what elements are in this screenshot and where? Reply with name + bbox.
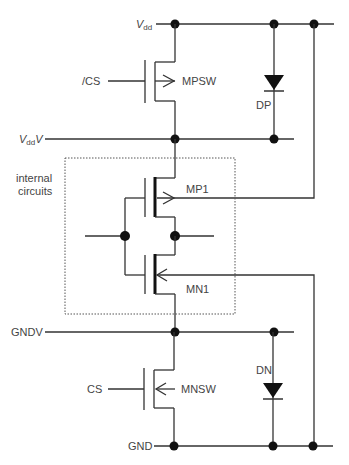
gnd-label: GND — [128, 440, 153, 452]
vdd-rail: Vdd — [136, 18, 334, 32]
internal-circuits-label-1: internal — [16, 172, 52, 184]
gnd-rail: GND — [128, 440, 333, 452]
mn1-label: MN1 — [186, 283, 209, 295]
transistor-mn1: MN1 — [145, 236, 314, 446]
circuit-diagram: Vdd /CS MPSW DP VddV internal circuits — [0, 0, 349, 465]
internal-circuits-label-2: circuits — [18, 185, 53, 197]
diode-dn: DN — [256, 332, 283, 446]
mpsw-label: MPSW — [182, 75, 217, 87]
dp-diode-icon — [264, 75, 284, 90]
gndv-rail: GNDV — [11, 326, 294, 338]
transistor-mpsw: /CS MPSW — [82, 24, 217, 139]
vdd-label: Vdd — [136, 18, 152, 32]
mp1-label: MP1 — [186, 183, 209, 195]
vddv-label: VddV — [19, 133, 44, 147]
gndv-label: GNDV — [11, 326, 43, 338]
vddv-rail: VddV — [19, 133, 294, 147]
dn-diode-icon — [263, 383, 283, 398]
transistor-mnsw: CS MNSW — [87, 332, 216, 446]
diode-dp: DP — [256, 24, 284, 139]
cs-bar-label: /CS — [82, 75, 100, 87]
cs-label: CS — [87, 383, 102, 395]
inverter-nodes — [85, 198, 214, 275]
dn-label: DN — [256, 364, 272, 376]
input-node — [120, 231, 130, 241]
mnsw-label: MNSW — [181, 383, 216, 395]
dp-label: DP — [256, 99, 271, 111]
transistor-mp1: MP1 — [145, 139, 209, 236]
